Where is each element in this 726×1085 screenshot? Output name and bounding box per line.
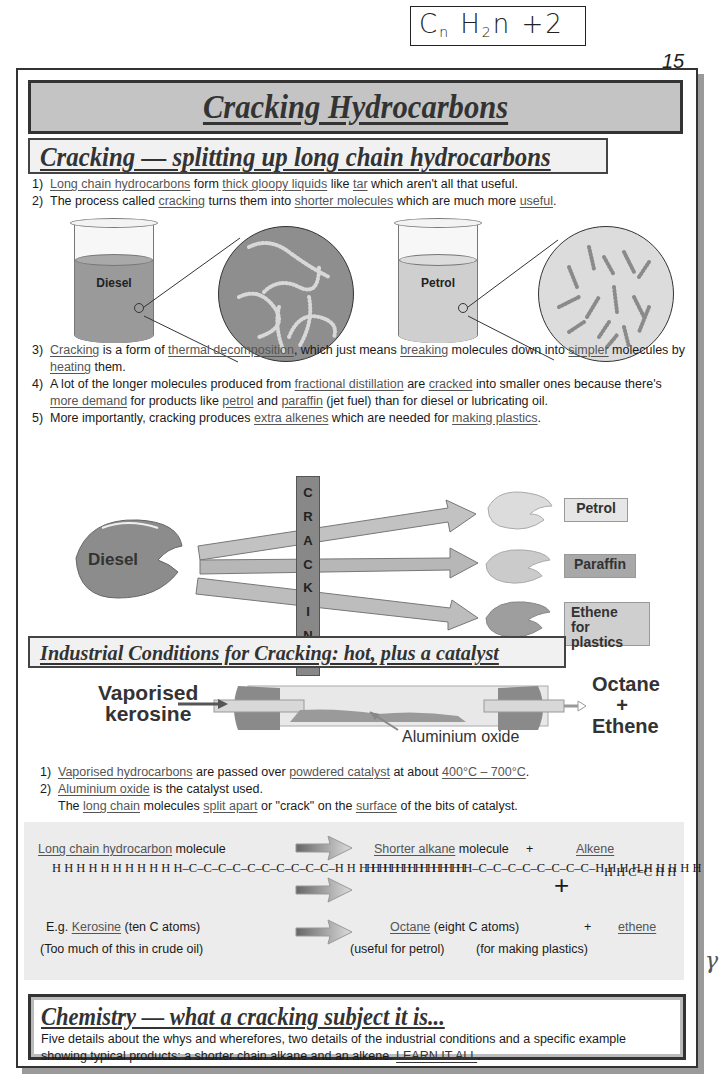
- key-term: fractional distillation: [295, 377, 404, 391]
- key-term: petrol: [222, 394, 253, 408]
- list-item-number: 1): [40, 764, 58, 781]
- eq-example-middle: Octane (eight C atoms): [390, 920, 519, 934]
- summary-learn-it-all: LEARN IT ALL: [396, 1049, 477, 1063]
- eq-heading-left-rest: molecule: [172, 842, 226, 856]
- formula-sub-n: n: [439, 24, 450, 40]
- text-run: The: [58, 799, 83, 813]
- list-item-text: Vaporised hydrocarbons are passed over p…: [58, 764, 529, 781]
- reaction-arrows-icon: [294, 836, 354, 946]
- output-label-line1: Octane: [592, 674, 652, 695]
- eq-heading-left-term: Long chain hydrocarbon: [38, 842, 172, 856]
- key-term: powdered catalyst: [289, 765, 390, 779]
- list-item: 2)Aluminium oxide is the catalyst used.: [40, 781, 680, 798]
- product-ethene-line2: for plastics: [571, 620, 643, 650]
- summary-end: .: [477, 1049, 480, 1063]
- text-run: turns them into: [205, 194, 295, 208]
- formula-plus: +: [522, 9, 546, 39]
- text-run: A lot of the longer molecules produced f…: [50, 377, 295, 391]
- formula-c: C: [419, 9, 439, 39]
- text-run: and: [254, 394, 282, 408]
- list-item-text: A lot of the longer molecules produced f…: [50, 376, 692, 410]
- formula-two: 2: [545, 9, 564, 39]
- list-item-number: 2): [32, 193, 50, 210]
- key-term: simpler: [568, 343, 608, 357]
- formula-n: n: [493, 9, 511, 39]
- section-heading-industrial: Industrial Conditions for Cracking: hot,…: [40, 640, 499, 666]
- list-item-text: The process called cracking turns them i…: [50, 193, 557, 210]
- key-term: thick gloopy liquids: [222, 177, 327, 191]
- text-run: More importantly, cracking produces: [50, 411, 254, 425]
- eq-heading-middle-rest: molecule: [455, 842, 509, 856]
- key-term: breaking: [400, 343, 448, 357]
- text-run: .: [538, 411, 541, 425]
- key-term: long chain: [83, 799, 140, 813]
- list-item-text: Aluminium oxide is the catalyst used.: [58, 781, 263, 798]
- key-term: extra alkenes: [254, 411, 328, 425]
- formula-h: H: [460, 9, 482, 39]
- text-run: The process called: [50, 194, 158, 208]
- beaker-rim: [394, 218, 482, 228]
- list-item: 3)Cracking is a form of thermal decompos…: [32, 342, 692, 376]
- eq-heading-alkene: Alkene: [576, 842, 614, 856]
- catalyst-tube-diagram: Vaporised kerosine Aluminium oxide Octan…: [18, 674, 696, 760]
- text-run: which aren't all that useful.: [368, 177, 518, 191]
- text-run: molecules down into: [448, 343, 568, 357]
- eq-ten-c: (ten C atoms): [121, 920, 200, 934]
- text-run: molecules: [140, 799, 203, 813]
- diesel-source-label: Diesel: [88, 550, 138, 570]
- input-label: Vaporised kerosine: [98, 682, 198, 724]
- key-term: more demand: [50, 394, 127, 408]
- key-term: cracking: [158, 194, 205, 208]
- eq-heading-middle-term: Shorter alkane: [374, 842, 455, 856]
- list-item-text: Long chain hydrocarbons form thick gloop…: [50, 176, 518, 193]
- list-item: 1)Vaporised hydrocarbons are passed over…: [40, 764, 680, 781]
- list-item: 4)A lot of the longer molecules produced…: [32, 376, 692, 410]
- cracking-letter: C: [303, 485, 312, 500]
- list-item: The long chain molecules split apart or …: [40, 798, 680, 815]
- handwritten-formula-annotation: Cn H2n +2: [410, 6, 586, 46]
- summary-heading: Chemistry — what a cracking subject it i…: [41, 1003, 445, 1031]
- cracking-letter: C: [303, 557, 312, 572]
- product-box-petrol: Petrol: [564, 498, 628, 522]
- text-run: into smaller ones because there's: [472, 377, 661, 391]
- section-heading-cracking: Cracking — splitting up long chain hydro…: [40, 142, 551, 173]
- text-run: at about: [390, 765, 442, 779]
- input-label-line1: Vaporised: [98, 682, 198, 703]
- key-term: thermal decomposition: [168, 343, 294, 357]
- text-run: like: [327, 177, 353, 191]
- text-run: of the bits of catalyst.: [397, 799, 518, 813]
- list-item-number: 4): [32, 376, 50, 410]
- key-term: making plastics: [452, 411, 537, 425]
- text-run: them.: [91, 360, 126, 374]
- list-item: 2)The process called cracking turns them…: [32, 193, 692, 210]
- list-item-number: 3): [32, 342, 50, 376]
- eq-example-right: ethene: [618, 920, 656, 934]
- eq-heading-plus: +: [526, 842, 533, 856]
- eq-eg: E.g.: [46, 920, 72, 934]
- cracking-letter: K: [303, 580, 312, 595]
- text-run: is a form of: [99, 343, 168, 357]
- industrial-points-list: 1)Vaporised hydrocarbons are passed over…: [40, 764, 680, 815]
- eq-note-middle: (useful for petrol): [350, 942, 444, 956]
- key-term: heating: [50, 360, 91, 374]
- cracking-points-list-1: 1)Long chain hydrocarbons form thick glo…: [32, 176, 692, 210]
- eq-eight-c: (eight C atoms): [430, 920, 519, 934]
- product-ethene-line1: Ethene: [571, 605, 643, 620]
- text-run: molecules by: [609, 343, 685, 357]
- key-term: tar: [353, 177, 368, 191]
- eq-note-left: (Too much of this in crude oil): [40, 942, 203, 956]
- eq-heading-left: Long chain hydrocarbon molecule: [38, 842, 226, 856]
- text-run: which are needed for: [328, 411, 452, 425]
- eq-heading-middle: Shorter alkane molecule: [374, 842, 509, 856]
- key-term: 400°C – 700°C: [442, 765, 526, 779]
- main-title-box: Cracking Hydrocarbons: [28, 80, 683, 134]
- eq-example-plus: +: [584, 920, 591, 934]
- summary-text: Five details about the whys and wherefor…: [41, 1031, 673, 1065]
- formula-sub-2: 2: [482, 24, 493, 40]
- list-item-text: More importantly, cracking produces extr…: [50, 410, 541, 427]
- text-run: are: [404, 377, 429, 391]
- key-term: useful: [520, 194, 553, 208]
- eq-octane: Octane: [390, 920, 430, 934]
- text-run: form: [190, 177, 222, 191]
- text-run: .: [526, 765, 529, 779]
